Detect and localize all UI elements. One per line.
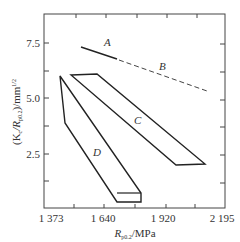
label-d: D <box>92 146 101 158</box>
y-tick-label-5-0: 5.0 <box>26 92 40 104</box>
label-b: B <box>159 60 166 72</box>
curve-a <box>81 47 117 59</box>
plot-frame <box>44 14 225 208</box>
label-c: C <box>134 114 142 126</box>
x-tick-label-1920: 1 920 <box>151 212 176 224</box>
band-d <box>60 76 141 202</box>
x-ticks-bottom <box>74 204 195 208</box>
y-axis-title: (Kc/Rp0.2)/mm1/2 <box>10 79 23 145</box>
y-tick-label-7-5: 7.5 <box>26 37 40 49</box>
x-ticks-top <box>76 14 197 18</box>
chart: 7.5 5.0 2.5 1 373 1 640 1 920 2 195 Rp0.… <box>0 0 240 242</box>
x-tick-label-1373: 1 373 <box>39 212 64 224</box>
x-tick-label-2195: 2 195 <box>210 212 235 224</box>
y-ticks-right <box>220 44 225 183</box>
x-tick-label-1640: 1 640 <box>91 212 116 224</box>
y-tick-label-2-5: 2.5 <box>26 148 40 160</box>
x-axis-title: Rp0.2/MPa <box>113 227 155 240</box>
label-a: A <box>103 36 111 48</box>
y-ticks-left <box>44 43 49 181</box>
